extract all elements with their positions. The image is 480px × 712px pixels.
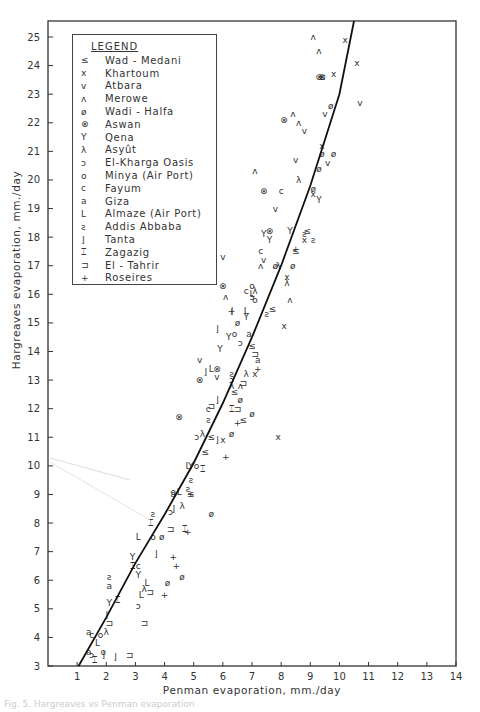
data-point-roseires: + (187, 489, 195, 499)
legend-item: ⌶Zagazig (79, 246, 216, 259)
y-tick-label: 21 (27, 146, 40, 157)
y-tick-label: 5 (34, 603, 40, 614)
x-tick-label: 4 (161, 671, 167, 682)
y-tick-label: 17 (27, 260, 40, 271)
legend-title: LEGEND (91, 41, 216, 52)
data-point-khartoum: x (331, 69, 337, 79)
legend-item: vAtbara (79, 80, 216, 93)
data-point-merowe: ʌ (296, 118, 302, 128)
x-tick-label: 5 (191, 671, 197, 682)
legend-item: ≤Wad - Medani (79, 54, 216, 67)
data-point-giza: a (106, 581, 112, 591)
figure-caption: Fig. 5. Hargreaves vs Penman evaporation (4, 699, 195, 709)
legend-symbol-icon: x (79, 68, 105, 78)
legend-item: aGiza (79, 195, 216, 208)
data-point-tanta: ⌋ (102, 650, 106, 660)
y-tick-label: 20 (27, 174, 40, 185)
data-point-wadi-halfa: ø (165, 578, 171, 588)
legend-item: +Roseires (79, 272, 216, 285)
data-point-el-tahrir: ⊐ (126, 650, 134, 660)
x-tick-label: 9 (307, 671, 313, 682)
data-point-atbara: v (220, 252, 226, 262)
data-point-aswan: ⊗ (219, 281, 227, 291)
legend-symbol-icon: c (79, 183, 105, 193)
y-tick-label: 23 (27, 89, 40, 100)
data-point-merowe: ʌ (252, 166, 258, 176)
data-point-el-tahrir: ⊐ (251, 349, 259, 359)
data-point-tanta: ⌋ (204, 367, 208, 377)
data-point-wadi-halfa: ø (208, 509, 214, 519)
data-point-khartoum: x (343, 35, 349, 45)
legend-item: cFayum (79, 182, 216, 195)
data-point-qena: Y (135, 570, 142, 580)
data-point-asy-t: λ (284, 278, 290, 288)
data-point-roseires: + (254, 364, 262, 374)
y-tick-label: 3 (34, 661, 40, 672)
data-point-almaze-air-port-: L (244, 306, 249, 316)
legend-symbol-icon: ⊗ (79, 119, 105, 129)
data-point-qena: Y (315, 195, 322, 205)
data-point-qena: Y (260, 229, 267, 239)
legend-symbol-icon: + (79, 273, 105, 283)
legend-item: YQena (79, 131, 216, 144)
data-point-wadi-halfa: ø (331, 149, 337, 159)
data-point-almaze-air-port-: L (95, 638, 100, 648)
legend-symbol-icon: ʌ (79, 94, 105, 104)
legend-item: ⊗Aswan (79, 118, 216, 131)
data-point-atbara: v (197, 355, 203, 365)
data-point-khartoum: x (220, 435, 226, 445)
data-point-khartoum: x (281, 321, 287, 331)
legend-label: Tanta (105, 234, 135, 245)
y-tick-label: 14 (27, 346, 40, 357)
data-point-atbara: v (325, 158, 331, 168)
legend-symbol-icon: ⌋ (79, 235, 105, 245)
y-tick-label: 22 (27, 117, 40, 128)
data-point-aswan: ⊗ (260, 186, 268, 196)
data-point-aswan: ⊗ (175, 412, 183, 422)
data-point-el-tahrir: ⊐ (234, 404, 242, 414)
legend-item: ʌMerowe (79, 92, 216, 105)
legend-label: El-Kharga Oasis (105, 157, 194, 168)
legend-symbol-icon: ɔ (79, 158, 105, 168)
data-point-asy-t: λ (179, 501, 185, 511)
legend-item: LAlmaze (Air Port) (79, 208, 216, 221)
legend-label: Asyût (105, 144, 137, 155)
data-point-addis-abbaba: ƨ (264, 309, 269, 319)
data-point-fayum: c (279, 186, 284, 196)
data-point-aswan: ⊗ (196, 375, 204, 385)
y-axis-title: Hargreaves evaporation, mm./day (10, 171, 22, 370)
y-tick-label: 24 (27, 60, 40, 71)
legend-item: ɔEl-Kharga Oasis (79, 156, 216, 169)
legend-symbol-icon: o (79, 171, 105, 181)
data-point-wadi-halfa: ø (229, 429, 235, 439)
legend-item: λAsyût (79, 144, 216, 157)
x-tick-label: 10 (333, 671, 346, 682)
scan-artifact-line (50, 462, 150, 520)
data-point-almaze-air-port-: L (249, 289, 254, 299)
x-tick-label: 13 (420, 671, 433, 682)
legend-symbol-icon: Y (79, 132, 105, 142)
legend-label: Merowe (105, 93, 148, 104)
x-tick-label: 6 (220, 671, 226, 682)
x-tick-label: 8 (278, 671, 284, 682)
data-point-atbara: v (293, 155, 299, 165)
data-point-wadi-halfa: ø (290, 261, 296, 271)
data-point-wad-medani: ≤ (202, 447, 210, 457)
data-point-asy-t: λ (296, 175, 302, 185)
data-point-almaze-air-port-: L (209, 364, 214, 374)
data-point-almaze-air-port-: L (139, 590, 144, 600)
y-axis-ticks: 345678910111213141516171819202122232425 (27, 32, 53, 672)
legend-symbol-icon: v (79, 81, 105, 91)
y-tick-label: 6 (34, 575, 40, 586)
data-point-tanta: ⌋ (113, 652, 117, 662)
data-point-tanta: ⌋ (215, 435, 219, 445)
data-point-aswan: ⊗ (318, 72, 326, 82)
legend-symbol-icon: ƨ (79, 222, 105, 232)
y-tick-label: 8 (34, 518, 40, 529)
legend-label: Khartoum (105, 68, 160, 79)
data-point-zagazig: ⌶ (200, 464, 205, 474)
legend-symbol-icon: ⌶ (79, 247, 105, 258)
y-tick-label: 25 (27, 32, 40, 43)
legend-item: ƨAddis Abbaba (79, 220, 216, 233)
data-point-el-kharga-oasis: ɔ (136, 601, 141, 611)
